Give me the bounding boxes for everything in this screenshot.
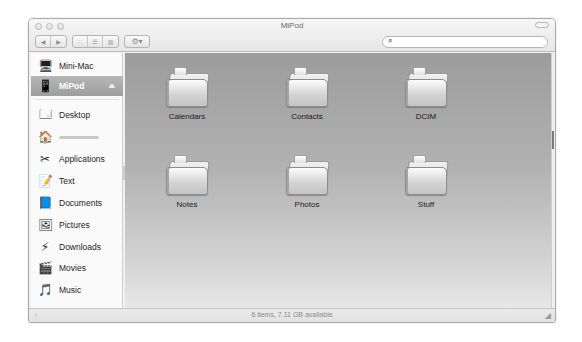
back-button[interactable]: ◀ <box>36 36 51 47</box>
title-bar[interactable]: MiPod ◀ ▶ ∷ ☰ ▥ ⚙▾ ⌕ <box>29 19 555 52</box>
forward-button[interactable]: ▶ <box>51 36 66 47</box>
sidebar-item-label: Downloads <box>59 242 101 252</box>
sidebar-item-pictures[interactable]: 🖼 Pictures <box>31 215 123 235</box>
sidebar-item-label: MiPod <box>59 81 85 91</box>
folder-label: Stuff <box>386 200 466 209</box>
sidebar-item-label: Desktop <box>59 110 90 120</box>
forward-icon: ▶ <box>56 38 61 45</box>
applications-icon: ✂ <box>37 151 53 167</box>
column-view-icon: ▥ <box>108 38 114 45</box>
folder-label: Contacts <box>267 112 347 121</box>
sidebar-item-mipod[interactable]: 📱 MiPod ⏏ <box>31 76 123 96</box>
downloads-icon: ⚡ <box>37 239 53 255</box>
sidebar-item-applications[interactable]: ✂ Applications <box>31 149 123 169</box>
sidebar-item-downloads[interactable]: ⚡ Downloads <box>31 237 123 257</box>
sidebar-divider <box>35 99 119 100</box>
toolbar: ◀ ▶ ∷ ☰ ▥ ⚙▾ <box>35 35 150 48</box>
folder-contacts[interactable]: Contacts <box>267 67 347 121</box>
redacted-label <box>59 136 99 139</box>
sidebar-item-music[interactable]: 🎵 Music <box>31 280 123 300</box>
folder-icon <box>403 155 449 195</box>
folder-dcim[interactable]: DCIM <box>386 67 466 121</box>
file-area: Calendars Contacts DCIM Notes Photos Stu… <box>125 53 554 309</box>
folder-label: Calendars <box>147 112 227 121</box>
sidebar-item-home[interactable]: 🏠 <box>31 127 123 147</box>
sidebar-item-label: Music <box>59 285 81 295</box>
sidebar-item-movies[interactable]: 🎬 Movies <box>31 258 123 278</box>
computer-icon: 🖥 <box>37 58 53 74</box>
view-buttons: ∷ ☰ ▥ <box>72 35 119 48</box>
status-text: 6 items, 7.11 GB available <box>29 311 555 318</box>
sidebar-item-mini-mac[interactable]: 🖥 Mini-Mac <box>31 56 123 76</box>
folder-label: Notes <box>147 200 227 209</box>
ipod-icon: 📱 <box>37 78 53 94</box>
resize-grip-icon[interactable]: ◢ <box>545 311 551 320</box>
sidebar-item-label: Applications <box>59 154 105 164</box>
documents-icon: 📘 <box>37 195 53 211</box>
eject-icon[interactable]: ⏏ <box>108 82 115 90</box>
list-view-button[interactable]: ☰ <box>88 36 103 47</box>
sidebar-item-label: Pictures <box>59 220 90 230</box>
folder-stuff[interactable]: Stuff <box>386 155 466 209</box>
folder-calendars[interactable]: Calendars <box>147 67 227 121</box>
column-view-button[interactable]: ▥ <box>103 36 118 47</box>
action-menu: ⚙▾ <box>124 35 150 48</box>
text-folder-icon: 📝 <box>37 173 53 189</box>
desktop-icon: 🗔 <box>37 107 53 123</box>
movies-icon: 🎬 <box>37 260 53 276</box>
folder-notes[interactable]: Notes <box>147 155 227 209</box>
action-button[interactable]: ⚙▾ <box>125 36 149 47</box>
vertical-scrollbar[interactable] <box>551 53 554 309</box>
list-view-icon: ☰ <box>92 38 97 45</box>
scrollbar-thumb[interactable] <box>552 131 554 149</box>
finder-window: MiPod ◀ ▶ ∷ ☰ ▥ ⚙▾ ⌕ 🖥 Mini-Mac 📱 <box>28 18 556 323</box>
folder-icon <box>284 67 330 107</box>
sidebar-item-desktop[interactable]: 🗔 Desktop <box>31 105 123 125</box>
folder-label: Photos <box>267 200 347 209</box>
folder-icon <box>164 155 210 195</box>
sidebar-item-label: Movies <box>59 263 86 273</box>
icon-view-icon: ∷ <box>78 38 82 45</box>
gear-icon: ⚙▾ <box>131 37 142 46</box>
nav-buttons: ◀ ▶ <box>35 35 67 48</box>
home-icon: 🏠 <box>37 129 53 145</box>
icon-view-button[interactable]: ∷ <box>73 36 88 47</box>
sidebar-item-label: Text <box>59 176 75 186</box>
folder-label: DCIM <box>386 112 466 121</box>
pictures-icon: 🖼 <box>37 217 53 233</box>
music-icon: 🎵 <box>37 282 53 298</box>
sidebar-item-label: Mini-Mac <box>59 61 93 71</box>
toolbar-toggle-button[interactable] <box>535 22 549 28</box>
back-icon: ◀ <box>41 38 46 45</box>
sidebar-item-label: Documents <box>59 198 102 208</box>
folder-icon <box>284 155 330 195</box>
status-bar: ⁞⁞ 6 items, 7.11 GB available ◢ <box>29 308 555 322</box>
window-title: MiPod <box>29 21 555 30</box>
sidebar-item-text[interactable]: 📝 Text <box>31 171 123 191</box>
search-field[interactable]: ⌕ <box>382 36 548 48</box>
search-icon: ⌕ <box>388 36 392 46</box>
folder-photos[interactable]: Photos <box>267 155 347 209</box>
folder-icon <box>164 67 210 107</box>
sidebar-item-documents[interactable]: 📘 Documents <box>31 193 123 213</box>
sidebar: 🖥 Mini-Mac 📱 MiPod ⏏ 🗔 Desktop 🏠 ✂ Appli… <box>31 53 123 309</box>
folder-icon <box>403 67 449 107</box>
